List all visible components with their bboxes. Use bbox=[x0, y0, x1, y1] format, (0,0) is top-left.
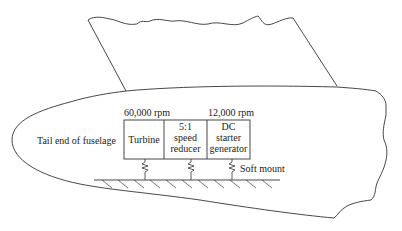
turbine-box-label: Turbine bbox=[124, 134, 164, 145]
turbine-label: Turbine bbox=[124, 134, 164, 145]
tail-end-label: Tail end of fuselage bbox=[37, 135, 116, 146]
soft-mount-spring-3 bbox=[229, 159, 235, 180]
soft-mount-label: Soft mount bbox=[240, 163, 285, 174]
dc-label: DC bbox=[207, 121, 250, 132]
soft-mount-spring-1 bbox=[142, 159, 148, 180]
soft-mount-spring-2 bbox=[188, 159, 194, 180]
ratio-label: 5:1 bbox=[164, 121, 207, 132]
generator-speed-label: 12,000 rpm bbox=[208, 107, 254, 118]
speed-label: speed bbox=[164, 132, 207, 143]
generator-box-label: DC starter generator bbox=[207, 121, 250, 154]
speed-reducer-box-label: 5:1 speed reducer bbox=[164, 121, 207, 154]
fuselage-diagram bbox=[0, 0, 402, 231]
starter-label: starter bbox=[207, 132, 250, 143]
generator-label: generator bbox=[207, 143, 250, 154]
turbine-speed-label: 60,000 rpm bbox=[124, 107, 170, 118]
tail-fin bbox=[88, 16, 337, 86]
reducer-label: reducer bbox=[164, 143, 207, 154]
